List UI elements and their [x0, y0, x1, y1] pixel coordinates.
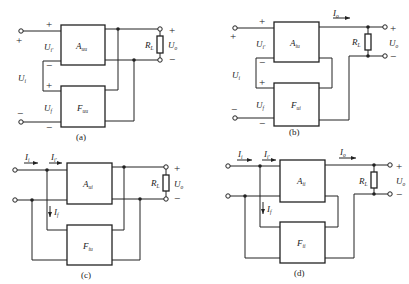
- load-resistor-label-d: RL: [358, 176, 368, 187]
- input-current-label-c: Ii: [24, 152, 30, 163]
- output-current-label-d: Io: [339, 147, 346, 158]
- input-terminal-minus-a: [19, 120, 23, 124]
- feedback-current-label-d: If: [266, 204, 273, 215]
- feedback-topologies-diagram: Auu Fuu + + − + − − + − Ui' Ui Uf RL Uo …: [0, 0, 409, 284]
- output-terminal-minus-a: [158, 58, 162, 62]
- sign-minus: −: [390, 50, 396, 62]
- input-terminal-plus-a: [19, 29, 23, 33]
- load-resistor-label-c: RL: [150, 178, 160, 189]
- output-terminal-plus-c: [164, 165, 168, 169]
- load-resistor-label-b: RL: [351, 37, 361, 48]
- output-terminal-plus-d: [388, 163, 392, 167]
- caption-b: (b): [289, 127, 300, 137]
- net-input-current-label-d: Ii': [263, 149, 271, 160]
- caption-d: (d): [294, 268, 305, 278]
- sign-minus: −: [169, 53, 175, 65]
- caption-c: (c): [81, 270, 91, 280]
- load-resistor-c: [163, 175, 169, 191]
- output-terminal-plus-b: [383, 25, 387, 29]
- input-terminal-2-d: [226, 194, 230, 198]
- output-voltage-label-c: Uo: [174, 179, 184, 190]
- sign-minus: −: [259, 117, 265, 129]
- sign-plus: +: [230, 30, 236, 42]
- input-terminal-1-d: [226, 164, 230, 168]
- output-terminal-minus-d: [388, 192, 392, 196]
- sign-plus: +: [46, 18, 52, 30]
- sign-plus: +: [169, 24, 175, 36]
- feedback-block-c: [67, 225, 112, 265]
- output-voltage-label-d: Uo: [396, 176, 406, 187]
- input-current-label-d: Ii: [237, 149, 243, 160]
- sign-plus: +: [259, 76, 265, 88]
- output-terminal-minus-b: [383, 54, 387, 58]
- sign-plus: +: [46, 79, 52, 91]
- sign-plus: +: [396, 160, 402, 172]
- output-voltage-label-a: Uo: [168, 40, 178, 51]
- net-input-current-label-c: Ii': [50, 152, 58, 163]
- sign-minus: −: [46, 59, 52, 71]
- load-resistor-label-a: RL: [144, 40, 154, 51]
- sign-minus: −: [174, 192, 180, 204]
- amplifier-block-b: [274, 22, 319, 62]
- input-voltage-label-a: Ui: [18, 73, 27, 84]
- sign-plus: +: [174, 162, 180, 174]
- sign-minus: −: [396, 188, 402, 200]
- input-terminal-minus-b: [233, 116, 237, 120]
- sign-minus: −: [259, 56, 265, 68]
- panel-a: Auu Fuu + + − + − − + − Ui' Ui Uf RL Uo …: [16, 18, 178, 142]
- output-terminal-plus-a: [158, 27, 162, 31]
- sign-plus: +: [259, 15, 265, 27]
- output-terminal-minus-c: [164, 197, 168, 201]
- feedback-voltage-label-b: Uf: [256, 100, 266, 111]
- sign-plus: +: [390, 22, 396, 34]
- load-resistor-d: [371, 172, 377, 188]
- amplifier-block-a: [61, 25, 105, 65]
- sign-plus: +: [16, 34, 22, 46]
- output-current-label-b: Io: [332, 8, 339, 19]
- net-input-voltage-label-b: Ui': [256, 39, 266, 50]
- input-voltage-label-b: Ui: [232, 70, 241, 81]
- sign-minus: −: [231, 103, 237, 115]
- input-terminal-2-c: [13, 198, 17, 202]
- panel-b: Aiu Fui Io + + − + − − + − Ui' Ui Uf RL …: [230, 8, 399, 137]
- panel-d: Aii Fii Ii Ii' Io If + − RL Uo (d): [226, 147, 406, 278]
- feedback-current-label-c: If: [53, 207, 60, 218]
- input-terminal-1-c: [13, 168, 17, 172]
- net-input-voltage-label-a: Ui': [44, 42, 54, 53]
- output-voltage-label-b: Uo: [389, 38, 399, 49]
- caption-a: (a): [76, 132, 86, 142]
- feedback-voltage-label-a: Uf: [44, 103, 54, 114]
- feedback-block-a: [61, 86, 105, 127]
- sign-minus: −: [17, 107, 23, 119]
- panel-c: Aui Fiu Ii Ii' If + − RL Uo (c): [13, 152, 184, 280]
- load-resistor-b: [365, 34, 371, 50]
- sign-minus: −: [46, 121, 52, 133]
- load-resistor-a: [157, 36, 163, 53]
